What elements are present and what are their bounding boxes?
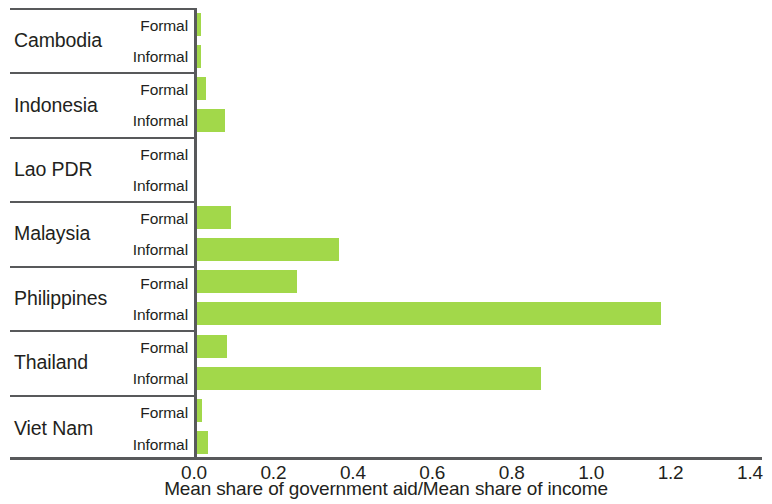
sector-row: Formal [80, 139, 188, 170]
bar-group [197, 330, 762, 394]
x-axis-title: Mean share of government aid/Mean share … [0, 479, 772, 498]
bar-slot [197, 233, 762, 265]
bar-group [197, 72, 762, 136]
sector-label: Formal [140, 276, 188, 292]
sector-row: Formal [80, 268, 188, 299]
bar-slot [197, 395, 762, 427]
sector-row: Formal [80, 397, 188, 429]
bar [197, 367, 542, 390]
sector-label: Formal [140, 340, 188, 356]
sector-label-column: FormalInformal [80, 203, 188, 265]
category-group: CambodiaFormalInformal [10, 10, 194, 74]
sector-row: Informal [80, 363, 188, 394]
bar [197, 109, 226, 132]
bar-slot [197, 169, 762, 201]
bar-slot [197, 137, 762, 169]
bar [197, 13, 202, 36]
category-group: Lao PDRFormalInformal [10, 139, 194, 203]
bar-slot [197, 201, 762, 233]
bar [197, 206, 232, 229]
sector-label-column: FormalInformal [80, 332, 188, 394]
bar-slot [197, 266, 762, 298]
bar [197, 77, 207, 100]
sector-row: Informal [80, 41, 188, 72]
bar-slot [197, 298, 762, 330]
bar [197, 45, 202, 68]
country-label: Malaysia [14, 225, 90, 245]
bar-slot [197, 330, 762, 362]
bar-slot [197, 362, 762, 394]
sector-label: Informal [133, 49, 188, 65]
bar-group [197, 137, 762, 201]
bar [197, 335, 228, 358]
sector-row: Informal [80, 299, 188, 330]
sector-label: Formal [140, 211, 188, 227]
sector-label-column: FormalInformal [80, 74, 188, 136]
bar-slot [197, 72, 762, 104]
bar [197, 431, 208, 454]
bar [197, 270, 297, 293]
sector-row: Informal [80, 106, 188, 137]
sector-label: Informal [133, 371, 188, 387]
bar [197, 302, 662, 325]
bars-layer [197, 8, 762, 459]
sector-label-column: FormalInformal [80, 397, 188, 461]
bar-slot [197, 105, 762, 137]
category-label-table: CambodiaFormalInformalIndonesiaFormalInf… [10, 8, 194, 459]
sector-label-column: FormalInformal [80, 268, 188, 330]
bar [197, 238, 339, 261]
sector-label: Informal [133, 437, 188, 453]
sector-row: Formal [80, 74, 188, 105]
bar-group [197, 8, 762, 72]
sector-label: Formal [140, 405, 188, 421]
sector-label: Informal [133, 242, 188, 258]
category-group: Viet NamFormalInformal [10, 397, 194, 461]
category-group: MalaysiaFormalInformal [10, 203, 194, 267]
sector-row: Formal [80, 332, 188, 363]
sector-label: Formal [140, 18, 188, 34]
sector-label-column: FormalInformal [80, 10, 188, 72]
category-group: PhilippinesFormalInformal [10, 268, 194, 332]
sector-label: Informal [133, 178, 188, 194]
sector-label: Formal [140, 147, 188, 163]
bar-group [197, 201, 762, 265]
category-group: IndonesiaFormalInformal [10, 74, 194, 138]
category-group: ThailandFormalInformal [10, 332, 194, 396]
horizontal-bar-chart: CambodiaFormalInformalIndonesiaFormalInf… [0, 0, 772, 504]
sector-label: Informal [133, 113, 188, 129]
sector-label: Informal [133, 307, 188, 323]
plot-area: CambodiaFormalInformalIndonesiaFormalInf… [10, 8, 762, 459]
bar-slot [197, 427, 762, 459]
bar-slot [197, 40, 762, 72]
sector-row: Formal [80, 10, 188, 41]
sector-label-column: FormalInformal [80, 139, 188, 201]
sector-row: Formal [80, 203, 188, 234]
sector-label: Formal [140, 82, 188, 98]
bar-group [197, 395, 762, 459]
country-label: Thailand [14, 354, 88, 374]
bar-slot [197, 8, 762, 40]
sector-row: Informal [80, 170, 188, 201]
bar [197, 399, 203, 422]
sector-row: Informal [80, 234, 188, 265]
bar-group [197, 266, 762, 330]
